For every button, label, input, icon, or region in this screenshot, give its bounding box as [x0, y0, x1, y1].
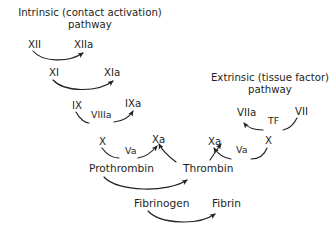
node-fibrin: Fibrin	[211, 198, 242, 209]
node-factor-vii: VII	[295, 107, 308, 117]
arrow-thrombin-to-xa-intrinsic	[159, 144, 176, 162]
node-thrombin: Thrombin	[182, 163, 235, 174]
arrow-vii-to-viia	[283, 118, 297, 130]
arrow-vii-to-viia-tail	[244, 123, 263, 130]
node-factor-x-intrinsic: X	[99, 137, 106, 147]
intrinsic-pathway-title-line1: Intrinsic (contact activation)	[11, 7, 169, 19]
arrow-ix-to-ixa	[76, 112, 89, 123]
node-fibrinogen: Fibrinogen	[133, 198, 190, 209]
arrow-prothrombin-to-thrombin	[104, 177, 187, 189]
node-cofactor-va-extrinsic: Va	[235, 145, 248, 154]
node-cofactor-viiia: VIIIa	[90, 110, 112, 119]
node-factor-ix: IX	[72, 101, 82, 111]
node-cofactor-va-intrinsic: Va	[124, 146, 137, 155]
arrow-x-to-xa-intrinsic-tail	[138, 146, 157, 158]
extrinsic-pathway-title-line2: pathway	[206, 84, 334, 96]
node-factor-viia: VIIa	[237, 108, 256, 118]
node-factor-xia: XIa	[104, 68, 120, 78]
arrow-ix-to-ixa-tail	[114, 111, 133, 122]
node-factor-xii: XII	[28, 40, 41, 50]
extrinsic-pathway-title: Extrinsic (tissue factor) pathway	[206, 72, 334, 96]
arrow-x-to-xa-intrinsic	[102, 148, 119, 158]
extrinsic-pathway-title-line1: Extrinsic (tissue factor)	[206, 72, 334, 84]
arrow-x-to-xa-extrinsic	[251, 148, 267, 159]
intrinsic-pathway-title-line2: pathway	[11, 19, 169, 31]
node-tissue-factor: TF	[267, 116, 280, 125]
arrow-xii-to-xiia	[33, 51, 83, 60]
node-factor-xa-extrinsic: Xa	[208, 137, 221, 147]
node-factor-ixa: IXa	[125, 99, 141, 109]
arrow-xi-to-xia	[53, 80, 113, 90]
intrinsic-pathway-title: Intrinsic (contact activation) pathway	[11, 7, 169, 31]
node-prothrombin: Prothrombin	[88, 163, 155, 174]
node-factor-xa-intrinsic: Xa	[152, 135, 165, 145]
node-factor-xi: XI	[49, 68, 59, 78]
arrow-fibrinogen-to-fibrin	[148, 211, 215, 222]
node-factor-xiia: XIIa	[74, 40, 93, 50]
node-factor-x-extrinsic: X	[265, 136, 272, 146]
coagulation-cascade-diagram: Intrinsic (contact activation) pathway E…	[0, 0, 336, 235]
